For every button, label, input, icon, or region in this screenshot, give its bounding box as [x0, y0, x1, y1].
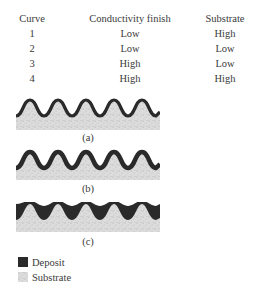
- header-curve: Curve: [12, 12, 52, 26]
- figure-a-wave: [16, 96, 160, 130]
- figure-b-wave: [16, 146, 160, 180]
- cell-conductivity: High: [82, 72, 178, 86]
- cell-substrate: Low: [200, 42, 250, 56]
- legend-substrate: Substrate: [18, 271, 71, 284]
- cell-curve: 4: [12, 72, 52, 86]
- header-conductivity-finish: Conductivity finish: [82, 12, 178, 26]
- figure-b-caption: (b): [16, 183, 160, 194]
- legend-deposit: Deposit: [18, 256, 65, 269]
- cell-conductivity: Low: [82, 42, 178, 56]
- table-row: 2 Low Low: [0, 42, 254, 56]
- cell-conductivity: High: [82, 57, 178, 71]
- legend-deposit-label: Deposit: [32, 257, 65, 268]
- table-row: 3 High Low: [0, 57, 254, 71]
- figure-c-wave: [16, 198, 160, 232]
- cell-substrate: High: [200, 27, 250, 41]
- header-substrate: Substrate: [200, 12, 250, 26]
- table-header-row: Curve Conductivity finish Substrate: [0, 12, 254, 26]
- cell-curve: 3: [12, 57, 52, 71]
- cell-curve: 1: [12, 27, 52, 41]
- deposit-swatch-icon: [18, 257, 28, 267]
- figure-c-caption: (c): [16, 236, 160, 247]
- table-row: 1 Low High: [0, 27, 254, 41]
- table-row: 4 High High: [0, 72, 254, 86]
- cell-substrate: Low: [200, 57, 250, 71]
- cell-conductivity: Low: [82, 27, 178, 41]
- cell-substrate: High: [200, 72, 250, 86]
- legend-substrate-label: Substrate: [32, 272, 71, 283]
- substrate-swatch-icon: [18, 272, 28, 282]
- figure-a-caption: (a): [16, 132, 160, 143]
- cell-curve: 2: [12, 42, 52, 56]
